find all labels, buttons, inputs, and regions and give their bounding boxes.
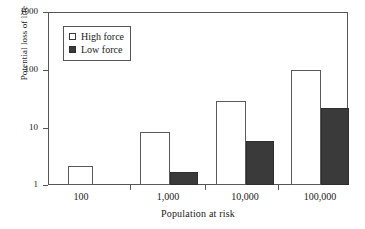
y-tick-label-100: 100 — [25, 64, 39, 74]
legend-label-high-force: High force — [81, 31, 124, 42]
y-tick-label-1: 1 — [34, 179, 39, 189]
x-tick-mark-2 — [205, 185, 206, 190]
legend-item-low-force: Low force — [69, 43, 124, 56]
filled-square-swatch-icon — [69, 46, 76, 53]
bar-low-force-100000[interactable] — [321, 108, 349, 185]
bar-chart-figure: Potential loss of life 1000 100 10 1 100 — [0, 0, 365, 229]
bar-high-force-1000[interactable] — [140, 132, 170, 185]
legend-item-high-force: High force — [69, 30, 124, 43]
y-tick-label-10: 10 — [29, 122, 38, 132]
x-tick-label-1000: 1,000 — [157, 191, 180, 202]
bar-high-force-100000[interactable] — [291, 70, 321, 185]
x-tick-label-100000: 100,000 — [304, 191, 337, 202]
bar-high-force-10000[interactable] — [216, 101, 246, 185]
x-tick-mark-1 — [130, 185, 131, 190]
y-tick-mark-1 — [43, 185, 48, 186]
y-axis-title: Potential loss of life — [19, 0, 29, 123]
open-square-swatch-icon — [69, 33, 76, 40]
x-tick-label-100: 100 — [74, 191, 89, 202]
bar-low-force-1000[interactable] — [170, 172, 198, 185]
y-tick-label-1000: 1000 — [20, 6, 38, 16]
x-tick-label-10000: 10,000 — [231, 191, 259, 202]
legend: High force Low force — [63, 26, 131, 61]
bar-low-force-10000[interactable] — [246, 141, 274, 185]
legend-label-low-force: Low force — [81, 44, 122, 55]
x-tick-mark-3 — [278, 185, 279, 190]
bar-high-force-100[interactable] — [68, 166, 93, 185]
x-axis-title: Population at risk — [48, 208, 348, 219]
